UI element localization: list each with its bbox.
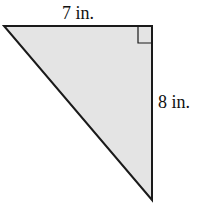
top-side-label: 7 in. — [62, 3, 94, 23]
triangle-shape — [4, 26, 152, 200]
right-side-label: 8 in. — [158, 92, 190, 112]
triangle-diagram: 7 in. 8 in. — [0, 0, 197, 214]
